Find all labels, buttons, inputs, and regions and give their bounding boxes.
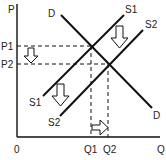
s2-label-top: S2: [145, 19, 158, 30]
axes: [17, 4, 160, 137]
supply-curve-s2: [60, 30, 143, 116]
quantity-increase-arrow-icon: [92, 120, 108, 135]
supply-demand-diagram: P P1 P2 0 Q1 Q2 Q D D S1 S2 S1 S2: [0, 0, 166, 160]
q1-label: Q1: [84, 144, 98, 155]
demand-label-top: D: [48, 8, 55, 19]
s1-label-bottom: S1: [29, 97, 42, 108]
s2-label-bottom: S2: [48, 117, 61, 128]
p2-label: P2: [1, 59, 14, 70]
supply-shift-arrow-upper-icon: [111, 26, 128, 48]
s1-label-top: S1: [125, 4, 138, 15]
supply-curve-s1: [43, 15, 124, 96]
y-axis-label: P: [8, 4, 15, 15]
demand-curve: [61, 15, 152, 108]
supply-shift-arrow-lower-icon: [52, 84, 69, 106]
x-axis-label: Q: [157, 144, 165, 155]
arrows: [24, 26, 128, 135]
labels: P P1 P2 0 Q1 Q2 Q D D S1 S2 S1 S2: [1, 4, 165, 155]
price-decrease-arrow-icon: [24, 48, 38, 63]
demand-label-bottom: D: [153, 110, 160, 121]
origin-label: 0: [14, 144, 20, 155]
q2-label: Q2: [103, 144, 117, 155]
p1-label: P1: [1, 41, 14, 52]
